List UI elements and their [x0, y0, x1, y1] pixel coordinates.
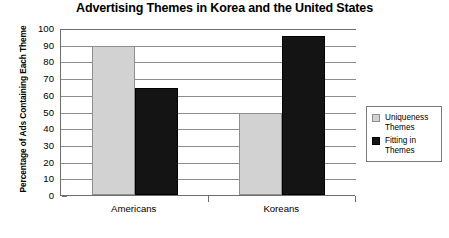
y-tick-label: 20: [8, 158, 54, 168]
y-tick-label: 80: [8, 57, 54, 67]
y-tick-label: 90: [8, 41, 54, 51]
page-title: Advertising Themes in Korea and the Unit…: [0, 1, 449, 15]
y-tick-label: 70: [8, 74, 54, 84]
y-tick-label: 0: [8, 191, 54, 201]
y-tick-mark: [62, 196, 67, 197]
x-tick-mark: [355, 196, 356, 202]
y-tick-label: 50: [8, 108, 54, 118]
plot-area: [60, 29, 355, 196]
legend-item-fitting[interactable]: Fitting in Themes: [372, 136, 441, 155]
legend-item-uniqueness[interactable]: Uniqueness Themes: [372, 113, 441, 132]
bar-koreans-fitting-in-themes: [282, 36, 325, 195]
y-tick-label: 60: [8, 91, 54, 101]
bar-americans-fitting-in-themes: [135, 88, 178, 195]
y-tick-label: 30: [8, 141, 54, 151]
legend-label: Fitting in Themes: [385, 136, 441, 155]
bar-koreans-uniqueness-themes: [239, 113, 282, 195]
y-tick-label: 40: [8, 124, 54, 134]
chart-legend: Uniqueness Themes Fitting in Themes: [366, 106, 442, 162]
legend-label: Uniqueness Themes: [385, 113, 441, 132]
x-category-label-americans: Americans: [60, 203, 208, 214]
y-tick-label: 100: [8, 24, 54, 34]
y-axis-tick-labels: 1009080706050403020100: [8, 29, 54, 196]
x-category-label-koreans: Koreans: [208, 203, 356, 214]
fitting-swatch-icon: [372, 137, 380, 145]
gridline: [61, 29, 356, 30]
y-tick-label: 10: [8, 174, 54, 184]
uniqueness-swatch-icon: [372, 114, 380, 122]
bar-americans-uniqueness-themes: [92, 46, 135, 195]
x-tick-mark: [208, 196, 209, 202]
